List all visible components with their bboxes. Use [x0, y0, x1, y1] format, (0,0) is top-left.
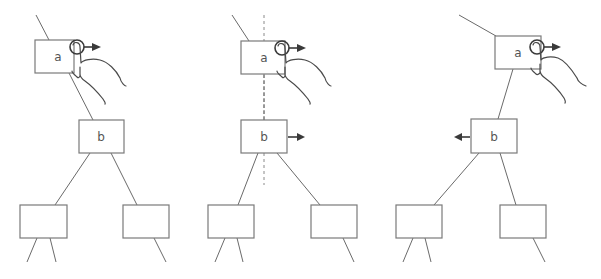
- edge-right-child-down: [154, 238, 166, 262]
- node-b[interactable]: b: [79, 120, 124, 153]
- arrow-right-icon: [289, 44, 306, 52]
- edge-left-child-down-2: [237, 238, 243, 262]
- panel-1: a b: [20, 15, 169, 262]
- edge-left-child-down-2: [425, 238, 431, 262]
- edge-parent-to-a: [232, 15, 249, 41]
- edge-b-to-right-child: [111, 153, 137, 205]
- node-right-child[interactable]: [500, 205, 546, 238]
- edge-a-to-b: [498, 69, 513, 119]
- node-a-label: a: [514, 46, 521, 60]
- panel-3: a b: [396, 15, 586, 262]
- node-b-label: b: [97, 130, 105, 144]
- node-b-label: b: [260, 130, 268, 144]
- node-b[interactable]: b: [471, 119, 517, 153]
- node-a-label: a: [260, 51, 267, 65]
- edge-left-child-down-1: [27, 238, 37, 262]
- panel-2: a b: [208, 15, 357, 262]
- node-b[interactable]: b: [241, 120, 287, 153]
- edge-a-to-b: [69, 73, 93, 120]
- arrow-right-icon: [544, 43, 561, 51]
- edge-b-to-right-child: [277, 153, 320, 205]
- arrow-left-icon: [454, 133, 470, 141]
- arrow-right-icon: [288, 133, 305, 141]
- edge-b-to-right-child: [500, 153, 516, 205]
- node-right-child[interactable]: [123, 205, 169, 238]
- node-a[interactable]: a: [35, 40, 74, 73]
- edge-right-child-down: [343, 238, 354, 262]
- edge-left-child-down-2: [50, 238, 56, 262]
- edge-parent-to-a: [459, 15, 496, 36]
- edge-parent-to-a: [36, 15, 49, 40]
- node-b-label: b: [490, 130, 498, 144]
- hand-pointer-icon: [277, 44, 331, 104]
- edge-b-to-left-child: [55, 153, 90, 205]
- tree-drag-diagram: a b a b: [0, 0, 601, 279]
- node-right-child[interactable]: [311, 205, 357, 238]
- edge-left-child-down-1: [403, 238, 413, 262]
- node-left-child[interactable]: [396, 205, 442, 238]
- edge-right-child-down: [533, 238, 545, 262]
- node-a-label: a: [54, 50, 61, 64]
- edge-left-child-down-1: [215, 238, 225, 262]
- node-left-child[interactable]: [20, 205, 67, 238]
- edge-b-to-left-child: [434, 153, 479, 205]
- edge-b-to-left-child: [238, 153, 258, 205]
- node-left-child[interactable]: [208, 205, 254, 238]
- arrow-right-icon: [84, 43, 101, 51]
